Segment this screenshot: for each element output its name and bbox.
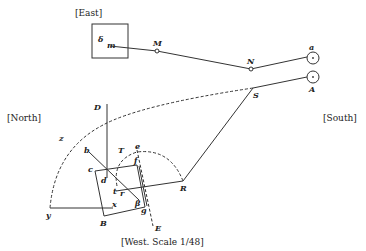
label-t: t [113,186,117,196]
label-N: N [246,56,255,66]
dashed-S-to-D [103,88,253,125]
label-T: T [118,145,125,155]
label-R: R [179,183,187,193]
label-g: g [141,205,147,215]
label-delta: δ [97,34,104,44]
line-S-A [253,77,307,88]
label-m: m [107,40,115,50]
label-x: x [111,199,117,209]
label-y: y [45,210,52,220]
label-south: [South] [323,113,357,123]
point-M [155,49,159,53]
line-S-R [183,88,253,181]
dashed-arc-T [116,152,183,186]
diagram-canvas: [East] [North] [South] [West. Scale 1/48… [0,0,366,251]
label-west-scale: [West. Scale 1/48] [121,237,204,247]
label-E: E [154,223,162,233]
label-z: z [58,133,64,143]
label-a: a [309,42,314,52]
label-north: [North] [7,113,41,123]
line-t-R [116,181,183,191]
label-B: B [99,218,107,228]
label-S: S [253,90,259,100]
circle-A-center [312,76,314,78]
label-east: [East] [75,8,102,18]
dashed-arc-z [50,125,103,208]
label-e: e [135,141,140,151]
label-d: d [101,175,107,185]
label-beta: β [134,198,141,208]
point-N [249,67,253,71]
label-b: b [84,145,90,155]
circle-a-center [312,57,314,59]
label-D: D [93,102,101,112]
label-M: M [152,38,163,48]
label-A: A [308,84,315,94]
line-m-M-N-a [110,46,307,69]
label-c: c [88,164,93,174]
